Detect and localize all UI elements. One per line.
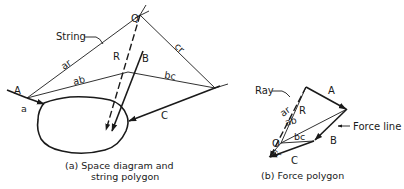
funicular-polygon-figure: String Q ar ab bc cr R B A a C (a) Space… [0,0,404,189]
label-ray: Ray [255,85,274,96]
label-bc: bc [164,69,177,82]
caption-a-line1: (a) Space diagram and [65,160,174,171]
label-a: a [21,103,27,114]
label-string: String [56,31,86,42]
force-C-arrow [129,86,220,121]
label-ab: ab [284,114,298,128]
label-ar: ar [59,57,73,72]
label-ab: ab [72,73,86,87]
space-diagram: String Q ar ab bc cr R B A a C (a) Space… [7,5,228,182]
force-polygon: Ray A Force line R ar ab O bc B cr C (b)… [255,85,401,181]
label-force-line: Force line [353,121,401,132]
label-C: C [291,155,298,166]
string-ar [27,15,140,98]
label-B: B [142,53,149,64]
ray-leader [272,91,290,97]
label-cr: cr [173,41,187,55]
label-Q: Q [131,13,139,24]
vector-A [306,87,346,109]
label-R: R [113,51,120,62]
label-A: A [328,85,335,96]
caption-a-line2: string polygon [91,171,159,182]
string-leader [84,37,103,44]
caption-b: (b) Force polygon [261,170,344,181]
label-bc: bc [294,131,305,142]
label-A: A [14,85,21,96]
label-B: B [330,135,337,146]
force-A-arrow [27,98,44,104]
label-C: C [161,110,168,121]
label-R: R [299,105,306,116]
